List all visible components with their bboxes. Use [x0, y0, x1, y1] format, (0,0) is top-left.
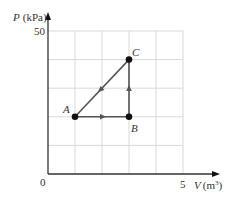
point-a: [72, 114, 79, 121]
x-axis-arrow-icon: [212, 171, 220, 177]
arrow-a-b-icon: [100, 114, 106, 120]
y-tick-50: 50: [34, 25, 46, 37]
label-point-c: C: [132, 46, 140, 58]
label-point-b: B: [131, 122, 138, 134]
point-b: [126, 114, 133, 121]
y-axis-label: P(kPa): [12, 11, 47, 24]
x-tick-5: 5: [180, 178, 186, 190]
x-axis-label: V(m3): [194, 179, 222, 192]
label-point-a: A: [62, 103, 70, 115]
pv-diagram: A B C P(kPa) 50 0 5 V(m3): [0, 0, 229, 197]
origin-label: 0: [40, 176, 46, 188]
